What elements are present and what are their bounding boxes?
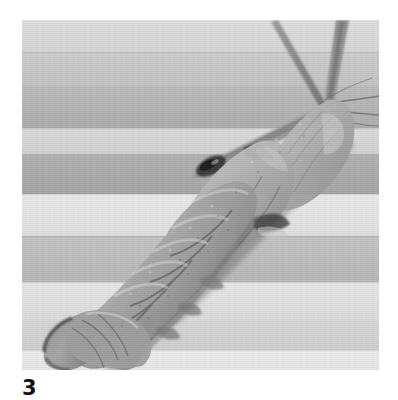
board-seam: [22, 350, 379, 351]
figure-plate: 3: [0, 0, 398, 400]
board-seam: [22, 282, 379, 283]
board-band: [22, 154, 379, 194]
board-seam: [22, 52, 379, 53]
board-band: [22, 320, 379, 350]
board-band: [22, 128, 379, 154]
specimen-photograph: [22, 20, 379, 370]
board-band: [22, 350, 379, 370]
board-band: [22, 86, 379, 128]
board-band: [22, 194, 379, 236]
board-band: [22, 20, 379, 52]
board-band: [22, 236, 379, 282]
board-band: [22, 52, 379, 86]
board-seam: [22, 194, 379, 195]
board-seam: [22, 128, 379, 129]
board-seam: [22, 236, 379, 237]
board-band: [22, 282, 379, 320]
figure-number-label: 3: [22, 378, 37, 399]
